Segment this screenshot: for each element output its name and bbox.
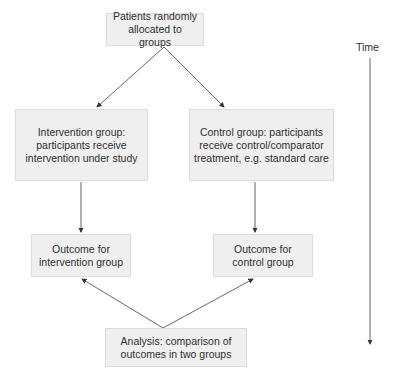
arrow-analysis-to-outcome-intervention xyxy=(82,279,163,328)
arrow-to-intervention xyxy=(97,47,164,107)
arrow-analysis-to-outcome-control xyxy=(163,279,253,328)
outcome-control-box: Outcome for control group xyxy=(213,234,313,277)
outcome-intervention-box: Outcome for intervention group xyxy=(31,234,131,277)
intervention-group-text: Intervention group: participants receive… xyxy=(25,126,137,165)
time-axis-label: Time xyxy=(356,41,379,53)
randomisation-text: Patients randomly allocated to groups xyxy=(111,10,199,49)
analysis-text: Analysis: comparison of outcomes in two … xyxy=(121,335,232,361)
randomisation-box: Patients randomly allocated to groups xyxy=(106,13,204,46)
analysis-box: Analysis: comparison of outcomes in two … xyxy=(105,328,247,367)
intervention-group-box: Intervention group: participants receive… xyxy=(15,109,148,181)
control-group-text: Control group: participants receive cont… xyxy=(194,126,329,165)
arrow-to-control xyxy=(164,47,224,107)
connector-layer xyxy=(0,0,397,381)
control-group-box: Control group: participants receive cont… xyxy=(189,109,334,181)
outcome-intervention-text: Outcome for intervention group xyxy=(39,243,123,269)
outcome-control-text: Outcome for control group xyxy=(232,243,293,269)
